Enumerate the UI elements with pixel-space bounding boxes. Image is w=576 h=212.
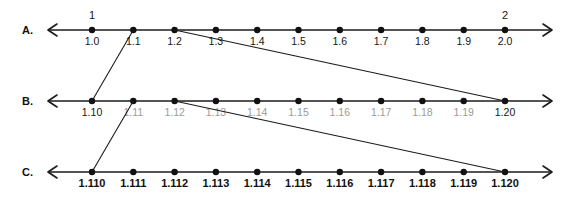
whole-number-label: 2 bbox=[502, 9, 508, 21]
tick-label: 1.12 bbox=[164, 106, 185, 118]
tick-dot bbox=[502, 27, 508, 33]
number-line-row-a: A.1.01.11.21.31.41.51.61.71.81.92.012 bbox=[22, 9, 552, 47]
tick-label: 1.8 bbox=[415, 35, 430, 47]
tick-label: 1.111 bbox=[120, 177, 146, 189]
tick-label: 1.16 bbox=[330, 106, 351, 118]
row-letter-row-a: A. bbox=[22, 24, 33, 36]
tick-label: 1.4 bbox=[250, 35, 265, 47]
tick-dot bbox=[213, 169, 219, 175]
number-line-row-c: C.1.1101.1111.1121.1131.1141.1151.1161.1… bbox=[22, 166, 552, 189]
tick-dot bbox=[419, 98, 425, 104]
tick-dot bbox=[213, 98, 219, 104]
tick-dot bbox=[378, 98, 384, 104]
tick-dot bbox=[337, 27, 343, 33]
tick-dot bbox=[89, 27, 95, 33]
figure-canvas: A.1.01.11.21.31.41.51.61.71.81.92.012B.1… bbox=[0, 0, 576, 212]
tick-label: 1.7 bbox=[374, 35, 389, 47]
tick-label: 1.6 bbox=[332, 35, 347, 47]
tick-dot bbox=[461, 27, 467, 33]
tick-dot bbox=[295, 27, 301, 33]
tick-label: 1.3 bbox=[209, 35, 224, 47]
tick-label: 1.10 bbox=[82, 106, 103, 118]
tick-dot bbox=[337, 169, 343, 175]
tick-dot bbox=[419, 169, 425, 175]
tick-label: 1.120 bbox=[491, 177, 519, 189]
tick-dot bbox=[461, 169, 467, 175]
tick-label: 1.9 bbox=[456, 35, 471, 47]
tick-label: 1.117 bbox=[368, 177, 395, 189]
tick-dot bbox=[378, 27, 384, 33]
tick-label: 1.116 bbox=[326, 177, 353, 189]
tick-label: 1.20 bbox=[495, 106, 516, 118]
tick-label: 1.112 bbox=[161, 177, 188, 189]
whole-number-label: 1 bbox=[89, 9, 95, 21]
tick-dot bbox=[337, 98, 343, 104]
tick-dot bbox=[378, 169, 384, 175]
tick-dot bbox=[171, 169, 177, 175]
tick-label: 1.1 bbox=[126, 35, 141, 47]
tick-dot bbox=[295, 98, 301, 104]
tick-label: 1.17 bbox=[371, 106, 392, 118]
tick-dot bbox=[295, 169, 301, 175]
tick-dot bbox=[213, 27, 219, 33]
tick-label: 1.119 bbox=[450, 177, 477, 189]
tick-dot bbox=[254, 27, 260, 33]
row-letter-row-b: B. bbox=[22, 95, 33, 107]
number-line-magnification-figure: A.1.01.11.21.31.41.51.61.71.81.92.012B.1… bbox=[0, 0, 576, 212]
row-letter-row-c: C. bbox=[22, 166, 33, 178]
tick-label: 1.5 bbox=[291, 35, 306, 47]
tick-label: 1.115 bbox=[285, 177, 312, 189]
tick-label: 1.2 bbox=[167, 35, 182, 47]
tick-label: 1.113 bbox=[202, 177, 229, 189]
tick-dot bbox=[254, 98, 260, 104]
tick-label: 1.114 bbox=[244, 177, 272, 189]
tick-label: 1.118 bbox=[409, 177, 436, 189]
tick-dot bbox=[130, 169, 136, 175]
tick-label: 1.15 bbox=[288, 106, 309, 118]
tick-label: 1.18 bbox=[412, 106, 433, 118]
tick-label: 1.19 bbox=[453, 106, 474, 118]
tick-label: 1.14 bbox=[247, 106, 268, 118]
tick-label: 1.0 bbox=[85, 35, 100, 47]
number-line-row-b: B.1.101.111.121.131.141.151.161.171.181.… bbox=[22, 95, 552, 118]
tick-dot bbox=[254, 169, 260, 175]
tick-label: 1.110 bbox=[79, 177, 106, 189]
tick-label: 2.0 bbox=[498, 35, 513, 47]
tick-dot bbox=[419, 27, 425, 33]
tick-dot bbox=[461, 98, 467, 104]
